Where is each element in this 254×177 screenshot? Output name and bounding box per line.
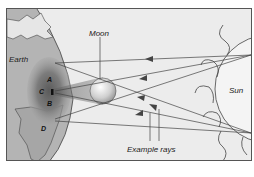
eclipse-diagram [7,9,252,161]
ray-arrowheads [135,56,157,116]
sun-label: Sun [229,86,243,95]
point-d-label: D [41,125,46,132]
earth-label: Earth [9,55,28,64]
moon-label: Moon [89,29,109,38]
example-rays-label: Example rays [127,145,175,154]
sun [195,25,252,161]
earth [7,9,73,161]
point-c-label: C [39,88,44,95]
diagram-frame: Earth Moon Sun Example rays A C B D [6,8,252,161]
point-b-label: B [47,100,52,107]
point-a-label: A [47,76,52,83]
